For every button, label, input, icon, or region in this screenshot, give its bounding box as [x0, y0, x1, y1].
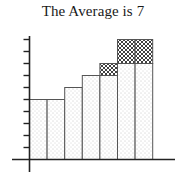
bar	[30, 100, 48, 160]
bar	[100, 64, 118, 160]
bar	[118, 40, 136, 160]
bar-chart	[0, 0, 186, 177]
bar-base-segment	[82, 76, 100, 160]
bar-base-segment	[65, 88, 83, 160]
bar-excess-segment	[135, 40, 153, 64]
bar-excess-segment	[118, 40, 136, 64]
bar-base-segment	[135, 64, 153, 160]
bar-base-segment	[30, 100, 48, 160]
bar-excess-segment	[100, 64, 118, 76]
bars-group	[30, 40, 153, 160]
bar	[135, 40, 153, 160]
bar-base-segment	[47, 100, 65, 160]
bar	[65, 88, 83, 160]
bar	[47, 100, 65, 160]
bar-base-segment	[118, 64, 136, 160]
bar	[82, 76, 100, 160]
bar-base-segment	[100, 76, 118, 160]
